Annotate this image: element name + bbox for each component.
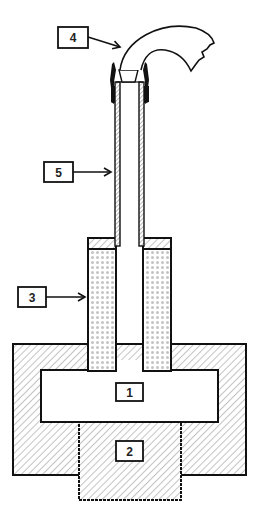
label-3-text: 3 xyxy=(29,291,36,305)
thin-tube xyxy=(115,82,144,246)
arrow-4 xyxy=(88,37,120,47)
cross-section-diagram: 4 5 3 1 2 xyxy=(0,0,260,513)
label-1: 1 xyxy=(116,383,143,401)
label-5-text: 5 xyxy=(55,166,62,180)
label-4-text: 4 xyxy=(70,31,77,45)
label-5: 5 xyxy=(44,162,111,182)
label-2: 2 xyxy=(116,441,143,461)
label-3: 3 xyxy=(18,287,85,307)
label-1-text: 1 xyxy=(126,386,133,400)
column-cap xyxy=(88,238,171,249)
label-4: 4 xyxy=(58,27,120,48)
label-2-text: 2 xyxy=(126,445,133,459)
curved-hose xyxy=(110,26,214,104)
